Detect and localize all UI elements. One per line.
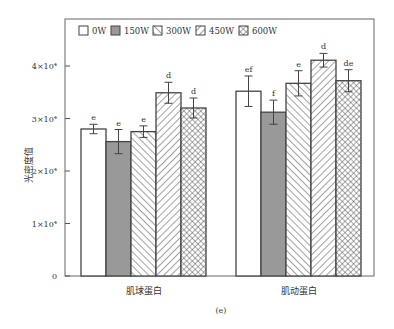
bar	[336, 81, 361, 276]
significance-letter: e	[116, 119, 121, 128]
legend-swatch	[79, 26, 88, 35]
significance-letter: d	[321, 42, 326, 51]
bar	[181, 108, 206, 276]
legend-label: 600W	[252, 26, 277, 36]
bar	[236, 91, 261, 276]
y-tick-label: 1×10⁴	[32, 220, 57, 229]
bar	[156, 93, 181, 276]
bar	[286, 83, 311, 276]
legend-swatch	[153, 26, 162, 35]
legend-label: 0W	[92, 26, 106, 36]
significance-letter: e	[141, 115, 146, 124]
significance-letter: e	[91, 113, 96, 122]
legend-swatch	[111, 26, 120, 35]
y-tick-label: 3×10⁴	[32, 115, 57, 124]
bar-chart: 01×10⁴2×10⁴3×10⁴4×10⁴光密度值eeedd肌球蛋白effedd…	[0, 0, 394, 329]
category-label: 肌动蛋白	[281, 285, 317, 296]
bar	[261, 112, 286, 276]
legend-label: 450W	[209, 26, 234, 36]
significance-letter: de	[344, 59, 354, 68]
bar	[81, 129, 106, 276]
y-tick-label: 2×10⁴	[32, 167, 57, 176]
legend-label: 300W	[166, 26, 191, 36]
y-tick-label: 4×10⁴	[32, 62, 57, 71]
bar	[131, 132, 156, 276]
legend-swatch	[239, 26, 248, 35]
category-label: 肌球蛋白	[126, 285, 162, 296]
significance-letter: f	[272, 89, 276, 98]
significance-letter: d	[191, 87, 196, 96]
y-tick-label: 0	[52, 272, 57, 281]
bar	[106, 142, 131, 276]
y-axis-label: 光密度值	[23, 147, 34, 183]
figure-caption: (e)	[216, 306, 227, 315]
significance-letter: ef	[245, 65, 254, 74]
significance-letter: d	[166, 71, 171, 80]
legend-swatch	[196, 26, 205, 35]
significance-letter: e	[296, 60, 301, 69]
bar	[311, 60, 336, 276]
legend-label: 150W	[124, 26, 149, 36]
